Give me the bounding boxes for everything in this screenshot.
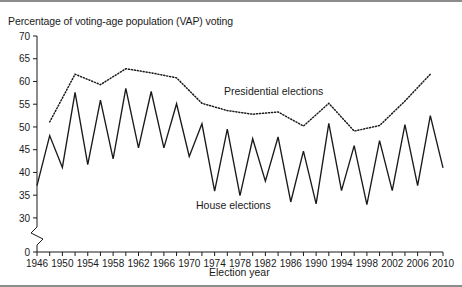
x-tick-label: 1958 (102, 258, 125, 269)
x-tick-label: 1954 (77, 258, 100, 269)
x-tick-label: 1970 (178, 258, 201, 269)
y-tick-label: 60 (19, 76, 31, 87)
x-tick-label: 1950 (51, 258, 74, 269)
x-tick-label: 2002 (381, 258, 404, 269)
y-tick-label: 50 (19, 122, 31, 133)
y-tick-label: 55 (19, 99, 31, 110)
y-tick-label: 45 (19, 144, 31, 155)
house-elections-label: House elections (196, 199, 271, 211)
y-tick-label: 70 (19, 31, 31, 42)
y-tick-labels: 7065605550454035300 (19, 31, 31, 258)
house-elections-line (37, 88, 443, 204)
x-tick-label: 1962 (127, 258, 150, 269)
y-tick-marks (33, 36, 37, 252)
y-axis: 7065605550454035300 (19, 31, 43, 258)
x-tick-label: 1966 (153, 258, 176, 269)
chart-figure: Percentage of voting-age population (VAP… (0, 0, 462, 287)
x-tick-label: 1998 (356, 258, 379, 269)
x-tick-label: 1986 (280, 258, 303, 269)
y-tick-label: 35 (19, 190, 31, 201)
y-tick-label: 65 (19, 53, 31, 64)
presidential-elections-label: Presidential elections (224, 85, 323, 97)
y-tick-label: 0 (24, 247, 30, 258)
y-tick-label: 40 (19, 167, 31, 178)
y-axis-break-symbol (31, 227, 43, 252)
x-tick-label: 1946 (26, 258, 49, 269)
x-tick-label: 2010 (432, 258, 455, 269)
x-tick-label: 1990 (305, 258, 328, 269)
x-axis-title: Election year (209, 266, 270, 278)
chart-plot-area: 7065605550454035300 19461950195419581962… (0, 2, 462, 287)
x-tick-label: 1994 (330, 258, 353, 269)
x-tick-marks (37, 252, 443, 256)
presidential-elections-line (50, 69, 431, 131)
y-tick-label: 30 (19, 213, 31, 224)
x-tick-label: 2006 (407, 258, 430, 269)
